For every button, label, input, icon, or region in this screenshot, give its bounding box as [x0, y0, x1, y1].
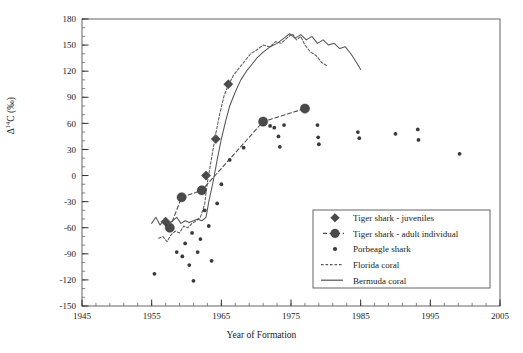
figure: 1945195519651975198519952005-150-120-90-…	[0, 0, 523, 353]
marker-dot	[199, 237, 203, 241]
y-tick-label: 60	[67, 119, 77, 129]
x-tick-label: 1945	[73, 311, 92, 321]
y-tick-label: -90	[64, 249, 76, 259]
marker-dot	[183, 241, 187, 245]
legend-marker-dot	[333, 247, 337, 251]
marker-dot	[228, 158, 232, 162]
marker-dot	[190, 231, 194, 235]
marker-dot	[277, 135, 281, 139]
y-tick-label: 150	[63, 40, 77, 50]
marker-dot	[268, 124, 272, 128]
y-tick-label: 180	[63, 14, 77, 24]
marker-dot	[242, 146, 246, 150]
y-tick-label: -120	[60, 275, 77, 285]
y-tick-label: -30	[64, 197, 76, 207]
marker-dot	[394, 132, 398, 136]
y-tick-label: 90	[67, 92, 77, 102]
marker-dot	[317, 142, 321, 146]
marker-dot	[192, 279, 196, 283]
marker-dot	[219, 182, 223, 186]
x-tick-label: 1965	[212, 311, 231, 321]
legend-label: Porbeagle shark	[353, 244, 411, 254]
marker-dot	[278, 145, 282, 149]
marker-dot	[356, 130, 360, 134]
marker-circle	[300, 104, 309, 113]
marker-circle	[197, 186, 206, 195]
marker-dot	[316, 135, 320, 139]
legend-label: Tiger shark - juveniles	[353, 213, 434, 223]
legend: Tiger shark - juvenilesTiger shark - adu…	[313, 210, 490, 288]
marker-circle	[259, 117, 268, 126]
y-tick-label: 0	[72, 171, 77, 181]
marker-dot	[215, 201, 219, 205]
x-tick-label: 1995	[421, 311, 440, 321]
marker-dot	[207, 224, 211, 228]
marker-dot	[175, 250, 179, 254]
legend-label: Florida coral	[353, 260, 400, 270]
marker-dot	[458, 152, 462, 156]
marker-dot	[187, 263, 191, 267]
y-tick-label: -60	[64, 223, 76, 233]
marker-dot	[210, 259, 214, 263]
x-tick-label: 1975	[282, 311, 301, 321]
marker-dot	[357, 136, 361, 140]
x-tick-label: 1985	[352, 311, 371, 321]
marker-dot	[417, 138, 421, 142]
x-axis-label: Year of Formation	[0, 330, 523, 340]
marker-dot	[196, 250, 200, 254]
y-axis-label: Δ14C (‰)	[4, 118, 17, 134]
marker-dot	[416, 128, 420, 132]
x-tick-label: 1955	[143, 311, 162, 321]
x-tick-label: 2005	[491, 311, 510, 321]
marker-dot	[282, 123, 286, 127]
marker-circle	[165, 223, 174, 232]
marker-dot	[272, 126, 276, 130]
chart-canvas: 1945195519651975198519952005-150-120-90-…	[0, 0, 523, 353]
marker-dot	[153, 272, 157, 276]
y-tick-label: 120	[63, 66, 77, 76]
y-tick-label: -150	[60, 301, 77, 311]
legend-label: Tiger shark - adult individual	[353, 229, 459, 239]
y-axis-label-text: Δ14C (‰)	[6, 97, 16, 134]
marker-dot	[180, 255, 184, 259]
legend-marker-circle	[331, 229, 340, 238]
legend-label: Bermuda coral	[353, 276, 407, 286]
marker-circle	[177, 193, 186, 202]
y-tick-label: 30	[67, 145, 77, 155]
marker-dot	[316, 123, 320, 127]
